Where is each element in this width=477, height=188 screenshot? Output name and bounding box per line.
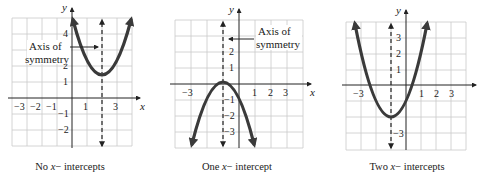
svg-text:symmetry: symmetry [256, 38, 300, 50]
svg-text:−3: −3 [224, 126, 235, 137]
x-axis-label: x [139, 100, 145, 112]
svg-text:−3: −3 [14, 101, 25, 112]
x-tick-labels: −3 1 2 3 [353, 88, 454, 99]
y-axis-label: y [228, 3, 234, 15]
graph-two-intercepts: y −3 1 2 3 3 2 1 −3 [342, 4, 476, 150]
axis-of-symmetry-annotation: Axis of symmetry [229, 25, 302, 50]
svg-text:4: 4 [63, 28, 68, 39]
y-axis-label: y [395, 4, 401, 16]
graph-no-intercepts: x y −3 −2 −1 1 3 4 2 1 −1 −2 Axis of sym… [8, 1, 145, 148]
svg-text:3: 3 [449, 88, 454, 99]
svg-text:Axis of: Axis of [258, 25, 291, 37]
svg-text:1: 1 [63, 76, 68, 87]
svg-text:−2: −2 [30, 101, 41, 112]
figure-canvas: x y −3 −2 −1 1 3 4 2 1 −1 −2 Axis of sym… [0, 0, 477, 188]
y-axis-label: y [61, 1, 67, 13]
caption-two-intercepts: Two x− intercepts [369, 161, 444, 172]
svg-text:−3: −3 [182, 87, 193, 98]
svg-text:1: 1 [229, 62, 234, 73]
x-axis-label: x [309, 86, 315, 98]
svg-text:2: 2 [434, 88, 439, 99]
svg-text:2: 2 [229, 46, 234, 57]
svg-text:3: 3 [113, 101, 118, 112]
caption-no-intercepts: No x− intercepts [35, 161, 105, 172]
svg-text:−3: −3 [393, 128, 404, 139]
svg-text:1: 1 [419, 88, 424, 99]
svg-text:symmetry: symmetry [25, 53, 69, 65]
y-tick-labels: 2 1 −1 −2 −3 [224, 46, 235, 137]
caption-one-intercept: One x− intercept [202, 161, 272, 172]
svg-text:1: 1 [83, 101, 88, 112]
svg-text:2: 2 [396, 48, 401, 59]
svg-text:3: 3 [283, 87, 288, 98]
svg-text:−1: −1 [46, 101, 57, 112]
svg-text:−3: −3 [353, 88, 364, 99]
svg-text:−1: −1 [58, 108, 69, 119]
svg-text:Axis of: Axis of [29, 40, 62, 52]
svg-text:2: 2 [268, 87, 273, 98]
svg-text:1: 1 [252, 87, 257, 98]
svg-text:3: 3 [396, 32, 401, 43]
svg-text:−1: −1 [224, 94, 235, 105]
svg-text:−2: −2 [224, 110, 235, 121]
svg-text:−2: −2 [58, 124, 69, 135]
svg-text:1: 1 [396, 64, 401, 75]
graph-one-intercept: x y −3 1 2 3 2 1 −1 −2 −3 Axis of symmet… [170, 3, 315, 148]
